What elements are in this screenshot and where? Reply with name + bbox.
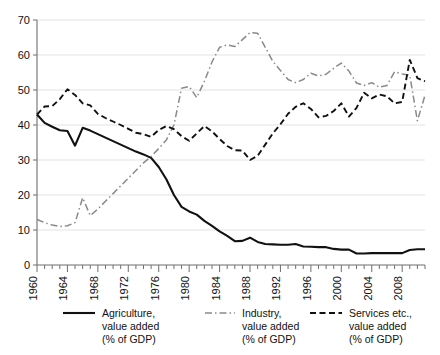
- legend-label-1-line-1: Agriculture,: [102, 307, 155, 319]
- x-tick-label: 1968: [88, 276, 100, 300]
- series-line-1: [37, 115, 425, 254]
- y-tick-label: 30: [18, 154, 30, 166]
- chart-container: 010203040506070 196019641968197219761980…: [0, 0, 440, 355]
- x-tick-label: 1984: [210, 276, 222, 300]
- y-tick-label: 40: [18, 119, 30, 131]
- legend-label-2-line-2: value added: [242, 320, 299, 332]
- legend-label-2-line-3: (% of GDP): [242, 333, 296, 345]
- legend-label-1-line-2: value added: [102, 320, 159, 332]
- x-tick-label: 1964: [57, 276, 69, 300]
- x-tick-label: 1980: [179, 276, 191, 300]
- legend-label-1-line-3: (% of GDP): [102, 333, 156, 345]
- x-axis-ticks: [37, 265, 425, 272]
- x-tick-label: 1988: [240, 276, 252, 300]
- legend-label-3-line-2: value added: [349, 320, 406, 332]
- y-tick-label: 50: [18, 84, 30, 96]
- x-tick-label: 1976: [149, 276, 161, 300]
- x-tick-label: 2008: [392, 276, 404, 300]
- series-line-3: [37, 60, 425, 160]
- data-series-group: [37, 33, 425, 254]
- y-tick-label: 10: [18, 224, 30, 236]
- y-tick-label: 70: [18, 14, 30, 26]
- legend-label-3-line-3: (% of GDP): [349, 333, 403, 345]
- x-tick-label: 2000: [331, 276, 343, 300]
- x-tick-label: 1996: [301, 276, 313, 300]
- series-line-2: [37, 33, 425, 227]
- legend-label-2-line-1: Industry,: [242, 307, 282, 319]
- y-tick-label: 20: [18, 189, 30, 201]
- x-axis-tick-labels: 1960196419681972197619801984198819921996…: [27, 276, 404, 300]
- legend-label-3-line-1: Services etc.,: [349, 307, 412, 319]
- x-tick-label: 1972: [118, 276, 130, 300]
- x-tick-label: 1992: [270, 276, 282, 300]
- y-tick-label: 0: [24, 259, 30, 271]
- y-axis-tick-labels: 010203040506070: [18, 14, 30, 271]
- y-tick-label: 60: [18, 49, 30, 61]
- chart-legend: Agriculture,value added(% of GDP)Industr…: [63, 307, 412, 345]
- x-tick-label: 2004: [362, 276, 374, 300]
- line-chart: 010203040506070 196019641968197219761980…: [0, 0, 440, 355]
- y-axis-ticks: [33, 20, 37, 265]
- gridlines: [37, 20, 425, 230]
- x-tick-label: 1960: [27, 276, 39, 300]
